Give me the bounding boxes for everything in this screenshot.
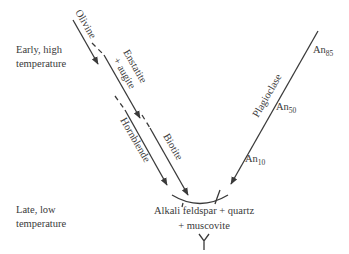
early-label-line2: temperature [16, 58, 66, 69]
an10-label: An10 [245, 153, 266, 167]
late-label-line1: Late, low [16, 204, 56, 215]
early-label-line1: Early, high [16, 44, 63, 55]
an85-label: An85 [313, 44, 334, 58]
enstatite-dashed-start [92, 43, 104, 55]
convergence-curve [172, 195, 228, 204]
hornblende-dashed-start [115, 96, 125, 110]
curve-tick-right [215, 190, 220, 204]
bottom-fork-icon [199, 234, 209, 250]
final-products-line2: + muscovite [178, 220, 230, 231]
hornblende-label: Hornblende [118, 116, 152, 165]
bowens-reaction-series-diagram: Early, high temperature Late, low temper… [0, 0, 349, 254]
olivine-label: Olivine [73, 8, 98, 41]
an50-label: An50 [276, 101, 297, 115]
final-products-line1: Alkali feldspar + quartz [154, 205, 254, 216]
late-label-line2: temperature [16, 218, 66, 229]
biotite-label: Biotite [161, 132, 185, 163]
biotite-dashed-start [142, 115, 150, 128]
